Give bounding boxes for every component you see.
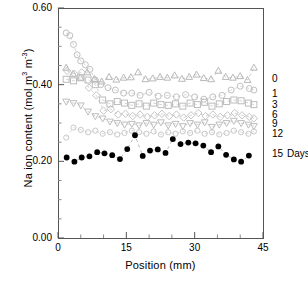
series-9	[63, 99, 257, 130]
data-point	[195, 109, 202, 116]
y-axis-title-text: Na ion content (mol m3 m-3)	[22, 48, 34, 187]
x-axis-tick-label: 15	[111, 242, 141, 253]
data-point	[121, 122, 128, 128]
data-point	[186, 73, 193, 79]
data-point	[122, 100, 128, 106]
x-axis-tick-label: 30	[180, 242, 210, 253]
data-point	[94, 149, 100, 155]
data-point	[107, 119, 114, 125]
data-point	[85, 109, 92, 115]
data-point	[173, 101, 179, 107]
data-point	[79, 155, 85, 161]
data-point	[151, 112, 158, 119]
data-point	[92, 114, 99, 120]
legend-unit-label: Days	[287, 148, 308, 159]
data-point	[150, 122, 157, 128]
data-point	[157, 73, 164, 79]
data-point	[64, 155, 70, 161]
data-point	[208, 149, 214, 155]
data-point	[165, 123, 172, 129]
data-point	[122, 110, 129, 117]
data-point	[171, 72, 178, 78]
chart-figure: Na ion content (mol m3 m-3) Position (mm…	[0, 0, 308, 281]
data-point	[164, 74, 171, 80]
data-point	[85, 130, 90, 135]
data-point	[194, 122, 201, 128]
data-point	[237, 73, 244, 79]
data-point	[143, 103, 149, 109]
data-point	[136, 101, 142, 107]
data-point	[140, 153, 146, 159]
y-axis-tick-label: 0.60	[18, 2, 52, 13]
x-axis-tick-label: 0	[43, 242, 73, 253]
data-point	[135, 69, 142, 75]
data-point	[246, 153, 252, 159]
y-axis-tick-label: 0.20	[18, 155, 52, 166]
data-point	[77, 103, 84, 109]
data-point	[93, 128, 98, 133]
legend-label-12: 12	[272, 128, 283, 139]
data-point	[192, 94, 198, 100]
data-point	[222, 73, 229, 79]
data-point	[105, 85, 111, 91]
data-point	[215, 143, 221, 149]
x-axis-title: Position (mm)	[58, 259, 263, 271]
data-point	[120, 74, 127, 80]
data-point	[143, 121, 150, 127]
data-point	[250, 64, 257, 70]
data-point	[124, 146, 130, 152]
data-point	[102, 150, 108, 156]
legend-label-15: 15	[272, 148, 283, 159]
data-point	[136, 123, 143, 129]
data-point	[200, 143, 206, 149]
data-point	[237, 83, 243, 89]
data-point	[117, 156, 123, 162]
data-point	[147, 148, 153, 154]
data-point	[193, 140, 199, 146]
data-point	[70, 101, 77, 107]
data-point	[223, 152, 229, 158]
data-point	[216, 101, 222, 107]
data-point	[178, 141, 184, 147]
data-point	[166, 130, 171, 135]
x-axis-tick-label: 45	[248, 242, 278, 253]
y-axis-tick-label: 0.40	[18, 79, 52, 90]
legend-label-0: 0	[272, 73, 278, 84]
data-point	[106, 73, 113, 79]
data-point	[215, 67, 222, 73]
data-point	[115, 132, 120, 137]
data-point	[100, 107, 107, 114]
data-point	[194, 102, 200, 108]
y-axis-title: Na ion content (mol m3 m-3)	[22, 33, 34, 203]
data-point	[114, 121, 121, 127]
data-point	[163, 150, 169, 156]
data-point	[231, 109, 238, 116]
data-point	[155, 147, 161, 153]
plot-frame	[59, 9, 264, 239]
data-point	[231, 157, 237, 163]
series-trendline-1	[66, 33, 254, 99]
series-15	[64, 132, 252, 164]
series-12	[64, 125, 257, 140]
data-point	[238, 159, 244, 165]
data-point	[185, 140, 191, 146]
data-point	[193, 71, 200, 77]
data-point	[170, 136, 176, 142]
data-point	[87, 153, 93, 159]
data-point	[109, 152, 115, 158]
legend-label-1: 1	[272, 88, 278, 99]
data-point	[202, 112, 209, 119]
data-point	[114, 99, 120, 105]
data-point	[151, 129, 156, 134]
data-point	[132, 132, 138, 138]
data-point	[127, 74, 134, 80]
data-point	[173, 111, 180, 118]
data-point	[144, 113, 151, 120]
data-point	[122, 130, 127, 135]
data-point	[200, 75, 207, 81]
data-point	[224, 99, 230, 105]
data-point	[216, 122, 223, 128]
data-point	[72, 159, 78, 165]
